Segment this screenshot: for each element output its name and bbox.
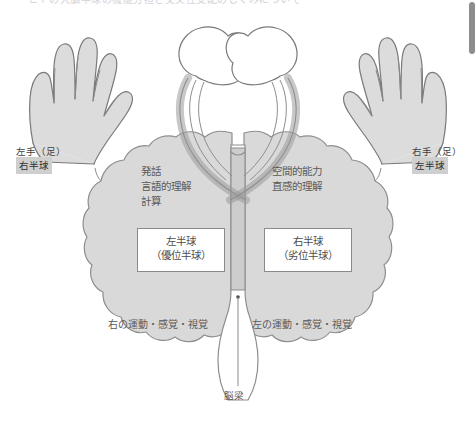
right-hemisphere-chip: 左半球 [412, 157, 448, 174]
right-hemisphere-box-subtitle: （劣位半球） [265, 248, 351, 262]
figure-page: ヒトの大脳半球の機能分担と交叉性支配のしくみについて [0, 0, 476, 428]
vertical-scrollbar-thumb[interactable] [469, 2, 475, 54]
right-hemisphere-sensory-line: 左の運動・感覚・視覚 [252, 316, 352, 331]
left-hemisphere-box: 左半球 （優位半球） [137, 228, 225, 272]
brain-laterality-diagram [0, 0, 476, 428]
right-arm-connector [375, 168, 381, 181]
right-hemisphere-box-title: 右半球 [293, 235, 323, 247]
left-arm-connector [95, 168, 101, 181]
left-hemisphere-function-3: 計算 [141, 194, 161, 209]
right-hemisphere-function-2: 直感的理解 [272, 179, 322, 194]
right-hemisphere-box: 右半球 （劣位半球） [264, 228, 352, 272]
left-hemisphere-function-1: 発話 [141, 164, 161, 179]
right-limb-label: 右手（足） [412, 144, 462, 158]
left-hemisphere-function-2: 言語的理解 [141, 179, 191, 194]
left-limb-label: 左手（足） [16, 144, 66, 158]
corpus-callosum-label: 脳梁 [224, 388, 244, 402]
right-hemisphere-function-1: 空間的能力 [272, 164, 322, 179]
left-hemisphere-box-title: 左半球 [166, 235, 196, 247]
corpus-callosum-column [231, 148, 245, 290]
vertical-scrollbar-track[interactable] [469, 0, 476, 428]
left-hemisphere-chip: 右半球 [16, 157, 52, 174]
left-hemisphere-box-subtitle: （優位半球） [138, 248, 224, 262]
left-hemisphere-sensory-line: 右の運動・感覚・視覚 [108, 316, 208, 331]
